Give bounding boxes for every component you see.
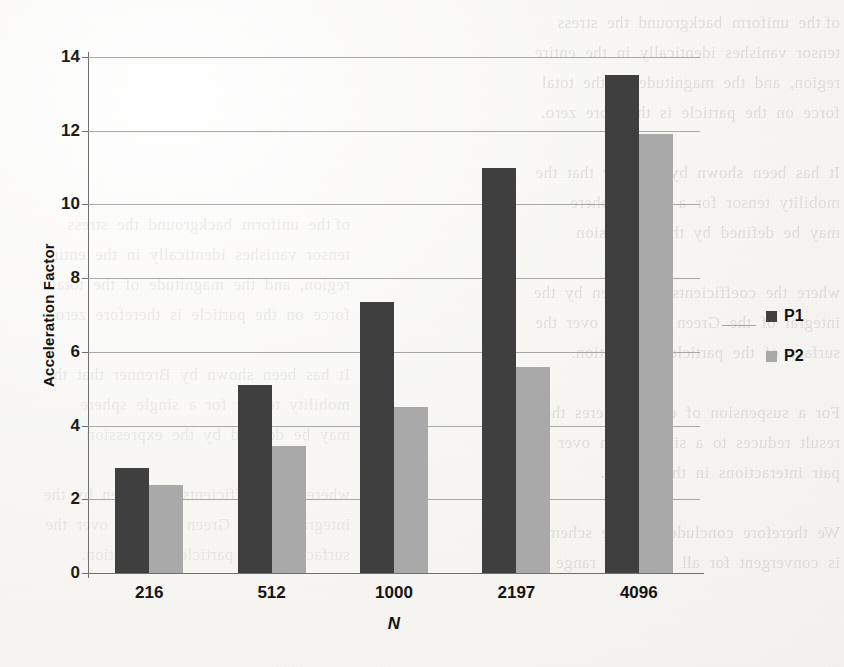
legend-swatch-p1-icon bbox=[766, 311, 777, 322]
legend-swatch-p2-icon bbox=[766, 351, 777, 362]
bar-P2-2197[interactable] bbox=[516, 367, 550, 573]
bar-P2-216[interactable] bbox=[149, 485, 183, 573]
y-axis-tick-label-8: 8 bbox=[71, 268, 80, 288]
bar-P1-2197[interactable] bbox=[482, 168, 516, 573]
x-axis-line bbox=[82, 573, 704, 574]
x-axis-title: N bbox=[388, 614, 400, 634]
bar-group-1000 bbox=[333, 57, 455, 573]
x-axis-tick-label-4096: 4096 bbox=[620, 583, 658, 603]
plot-area bbox=[88, 57, 700, 573]
y-axis-tick-label-0: 0 bbox=[71, 563, 80, 583]
x-axis-tick-label-2197: 2197 bbox=[497, 583, 535, 603]
y-axis-tick-label-4: 4 bbox=[71, 416, 80, 436]
bar-P1-216[interactable] bbox=[115, 468, 149, 573]
bar-P2-1000[interactable] bbox=[394, 407, 428, 573]
y-axis-tick-label-2: 2 bbox=[71, 489, 80, 509]
legend-item-p2[interactable]: P2 bbox=[766, 336, 828, 376]
legend-item-p1[interactable]: P1 bbox=[766, 296, 828, 336]
acceleration-factor-bar-chart: Acceleration Factor 02468101214 N P1 P2 … bbox=[0, 0, 844, 667]
y-axis-tick-mark-0 bbox=[82, 573, 88, 574]
y-axis-tick-label-6: 6 bbox=[71, 342, 80, 362]
bar-P1-512[interactable] bbox=[238, 385, 272, 573]
y-axis-tick-labels: 02468101214 bbox=[44, 57, 80, 573]
bar-group-2197 bbox=[455, 57, 577, 573]
bar-P2-4096[interactable] bbox=[639, 134, 673, 573]
x-axis-tick-label-512: 512 bbox=[257, 583, 285, 603]
y-axis-tick-label-14: 14 bbox=[61, 47, 80, 67]
chart-legend: P1 P2 bbox=[766, 296, 828, 376]
x-axis-tick-label-216: 216 bbox=[135, 583, 163, 603]
bar-P1-4096[interactable] bbox=[605, 75, 639, 573]
bar-P1-1000[interactable] bbox=[360, 302, 394, 573]
bar-group-512 bbox=[210, 57, 332, 573]
legend-label-p1: P1 bbox=[784, 307, 804, 325]
legend-leader-line bbox=[722, 325, 756, 326]
x-axis-tick-label-1000: 1000 bbox=[375, 583, 413, 603]
y-axis-tick-label-10: 10 bbox=[61, 194, 80, 214]
y-axis-tick-label-12: 12 bbox=[61, 121, 80, 141]
bar-group-216 bbox=[88, 57, 210, 573]
legend-label-p2: P2 bbox=[784, 347, 804, 365]
bar-P2-512[interactable] bbox=[272, 446, 306, 573]
y-axis-title-container: Acceleration Factor bbox=[22, 57, 42, 573]
bar-group-4096 bbox=[578, 57, 700, 573]
